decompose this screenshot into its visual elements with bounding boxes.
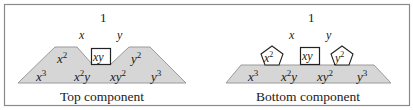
caption-top-component: Top component — [60, 89, 144, 104]
monomial-xy: xy — [301, 49, 313, 63]
figure-frame: 1 x y x2 xy y2 x3 x2y xy2 y3 Top compone… — [0, 0, 413, 110]
caption-bottom-component: Bottom component — [256, 89, 360, 104]
monomial-1: 1 — [308, 10, 315, 25]
monomial-xy: xy — [92, 50, 104, 64]
monomial-1: 1 — [100, 10, 107, 25]
monomial-y: y — [116, 28, 123, 42]
monomial-x: x — [288, 28, 295, 42]
monomial-x: x — [78, 28, 85, 42]
monomial-y: y — [325, 28, 332, 42]
